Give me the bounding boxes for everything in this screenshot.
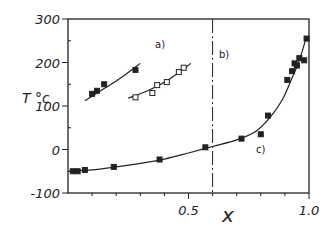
open-square-marker [133,95,138,100]
open-square-marker [176,70,181,75]
filled-square-marker [102,82,107,87]
y-tick-label: 0 [52,143,60,158]
filled-square-marker [75,169,80,174]
filled-square-marker [239,136,244,141]
filled-square-marker [258,132,263,137]
y-axis-label: T °c [22,90,50,106]
filled-square-marker [157,157,162,162]
filled-square-marker [304,36,309,41]
filled-square-marker [203,145,208,150]
annotation-b: b) [219,49,229,60]
x-tick-label: 0.5 [178,203,199,218]
filled-square-marker [133,67,138,72]
open-square-marker [150,90,155,95]
plot-frame [68,19,309,193]
filled-square-marker [294,63,299,68]
filled-square-marker [285,77,290,82]
chart: 3002001000-1000.51.0 T °c x a) b) c) [0,0,330,227]
filled-square-marker [70,169,75,174]
annotation-c: c) [256,144,265,155]
axes: 3002001000-1000.51.0 [30,12,319,218]
filled-square-marker [111,164,116,169]
filled-square-marker [302,58,307,63]
filled-square-marker [290,69,295,74]
filled-square-marker [266,113,271,118]
open-square-marker [164,80,169,85]
open-square-marker [155,83,160,88]
filled-square-marker [82,167,87,172]
filled-square-marker [297,56,302,61]
x-tick-label: 1.0 [299,203,320,218]
y-tick-label: 200 [35,56,60,71]
fit-curve [68,36,307,171]
x-axis-label: x [221,203,234,227]
open-square-marker [181,65,186,70]
fit-curves [68,36,307,171]
annotation-a: a) [155,39,165,50]
y-tick-label: 300 [35,12,60,27]
filled-square-marker [90,91,95,96]
filled-square-marker [94,88,99,93]
y-tick-label: -100 [30,186,60,201]
